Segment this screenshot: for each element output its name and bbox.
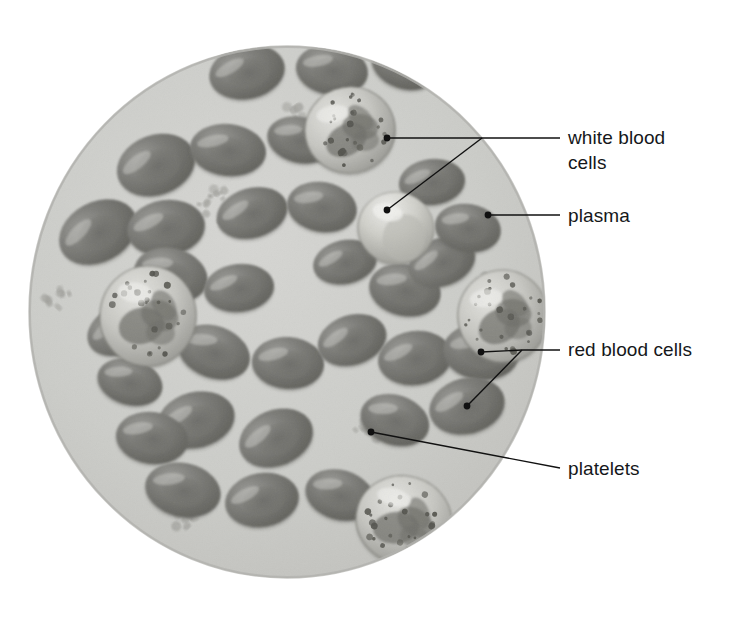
blood-diagram-canvas xyxy=(0,0,732,638)
label-white-blood-cells-line1: white blood xyxy=(568,127,665,148)
label-platelets: platelets xyxy=(568,456,640,481)
leader-dot xyxy=(485,212,492,219)
blood-diagram-page: white bloodcells plasma red blood cells … xyxy=(0,0,732,638)
leader-dot xyxy=(368,429,375,436)
label-white-blood-cells-line2: cells xyxy=(568,152,607,173)
label-red-blood-cells: red blood cells xyxy=(568,337,692,362)
leader-dot xyxy=(384,135,391,142)
label-white-blood-cells: white bloodcells xyxy=(568,125,665,175)
leader-dot xyxy=(384,207,391,214)
label-plasma: plasma xyxy=(568,203,630,228)
leader-dot xyxy=(478,349,485,356)
leader-dot xyxy=(464,403,471,410)
